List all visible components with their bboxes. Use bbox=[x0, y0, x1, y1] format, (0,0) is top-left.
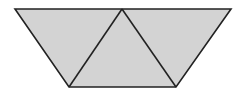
trapezoid-diagram bbox=[0, 0, 241, 92]
